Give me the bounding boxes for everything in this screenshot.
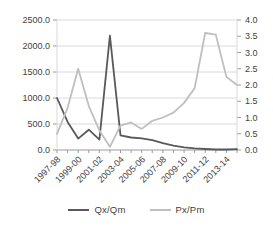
chart-legend: Qx/Qm Px/Pm	[0, 204, 273, 215]
px-pm-legend-label: Px/Pm	[176, 204, 205, 215]
right-axis-label: 2.5	[245, 64, 258, 74]
left-axis-label: 0.0	[37, 145, 50, 155]
left-axis-label: 2500.0	[22, 15, 50, 25]
right-axis-label: 0.0	[245, 145, 258, 155]
series-line-px-pm	[57, 33, 237, 147]
series-line-qx-qm	[57, 36, 237, 150]
right-axis-label: 1.0	[245, 113, 258, 123]
left-axis-label: 500.0	[27, 119, 50, 129]
left-axis-label: 1000.0	[22, 93, 50, 103]
px-pm-line-swatch	[150, 209, 171, 211]
left-axis-label: 1500.0	[22, 67, 50, 77]
qx-qm-line-swatch	[68, 209, 89, 211]
legend-item-qx-qm: Qx/Qm	[68, 204, 125, 215]
right-axis-label: 0.5	[245, 129, 258, 139]
qx-qm-legend-label: Qx/Qm	[94, 204, 125, 215]
right-axis-label: 3.5	[245, 31, 258, 41]
right-axis-label: 4.0	[245, 15, 258, 25]
right-axis-label: 3.0	[245, 48, 258, 58]
right-axis-label: 2.0	[245, 80, 258, 90]
right-axis-label: 1.5	[245, 96, 258, 106]
line-chart: 2500.02000.01500.01000.0500.00.04.03.53.…	[0, 0, 273, 231]
legend-item-px-pm: Px/Pm	[150, 204, 205, 215]
plot-area: 2500.02000.01500.01000.0500.00.04.03.53.…	[0, 0, 273, 202]
left-axis-label: 2000.0	[22, 41, 50, 51]
